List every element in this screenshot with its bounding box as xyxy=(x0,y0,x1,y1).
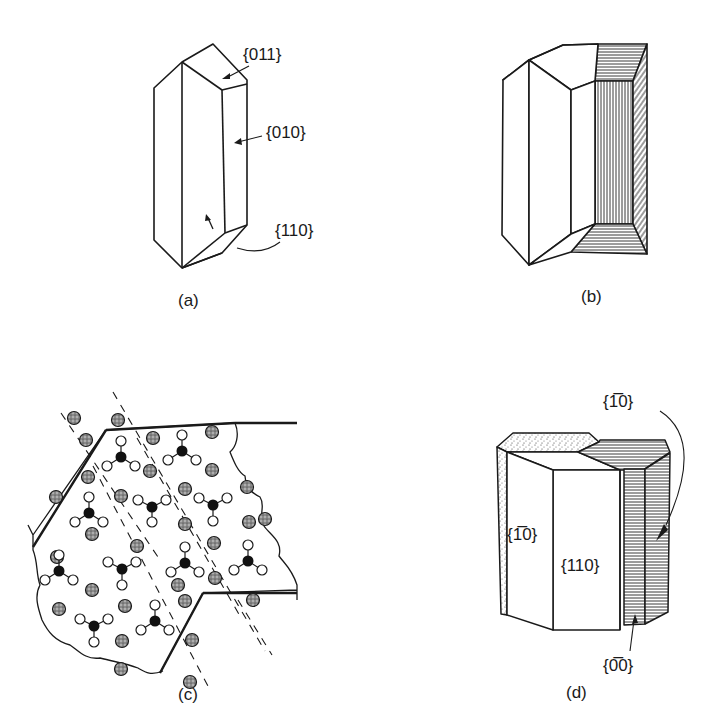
face-label-1bar10-left: {1̅0} xyxy=(507,525,538,544)
cation-site xyxy=(172,579,185,592)
cation-site xyxy=(80,434,93,447)
oxygen-atom xyxy=(191,455,201,465)
oxygen-atom xyxy=(70,517,80,527)
face-label-110: {110} xyxy=(275,221,314,240)
central-atom xyxy=(147,502,158,513)
oxygen-atom xyxy=(116,436,126,446)
panel-a-crystal xyxy=(154,44,280,268)
cation-site xyxy=(147,432,160,445)
cation-site xyxy=(115,490,128,503)
central-atom xyxy=(54,566,65,577)
oxygen-atom xyxy=(40,575,50,585)
central-atom xyxy=(84,508,95,519)
trigonal-unit xyxy=(102,436,140,471)
oxygen-atom xyxy=(133,495,143,505)
oxygen-atom xyxy=(75,614,85,624)
trigonal-unit xyxy=(70,492,108,527)
oxygen-atom xyxy=(177,430,187,440)
oxygen-atom xyxy=(194,567,204,577)
cation-site xyxy=(259,513,272,526)
trigonal-unit xyxy=(163,430,201,465)
cation-site xyxy=(241,481,254,494)
trigonal-unit xyxy=(75,614,113,647)
trigonal-unit xyxy=(133,495,171,527)
oxygen-atom xyxy=(180,542,190,552)
cation-site xyxy=(112,414,125,427)
cation-site xyxy=(115,663,128,676)
oxygen-atom xyxy=(229,565,239,575)
oxygen-atom xyxy=(150,600,160,610)
trigonal-unit xyxy=(40,550,78,585)
oxygen-atom xyxy=(84,492,94,502)
oxygen-atom xyxy=(147,517,157,527)
oxygen-atom xyxy=(68,575,78,585)
panel-label-c: (c) xyxy=(178,685,198,704)
cation-site xyxy=(119,600,132,613)
oxygen-atom xyxy=(257,565,267,575)
cation-site xyxy=(206,426,219,439)
trigonal-unit xyxy=(103,557,141,590)
cation-site xyxy=(86,584,99,597)
panel-label-a: (a) xyxy=(178,291,199,310)
central-atom xyxy=(117,564,128,575)
face-label-0bar10: {0̅0} xyxy=(603,656,634,675)
oxygen-atom xyxy=(54,550,64,560)
cation-site xyxy=(50,491,63,504)
trigonal-unit xyxy=(194,493,232,526)
oxygen-atom xyxy=(103,557,113,567)
cation-site xyxy=(208,537,221,550)
oxygen-atom xyxy=(164,625,174,635)
oxygen-atom xyxy=(130,461,140,471)
face-label-110: {110} xyxy=(561,556,600,575)
panel-label-b: (b) xyxy=(581,287,602,306)
cation-site xyxy=(209,572,222,585)
cation-site xyxy=(247,594,260,607)
oxygen-atom xyxy=(163,455,173,465)
crystal-habit-figure: {011} {010} {110} (a) (b) (c) xyxy=(0,0,727,717)
oxygen-atom xyxy=(166,567,176,577)
cation-site xyxy=(116,635,129,648)
panel-label-d: (d) xyxy=(566,683,587,702)
oxygen-atom xyxy=(208,516,218,526)
panel-c-structure xyxy=(28,392,297,690)
oxygen-atom xyxy=(102,461,112,471)
cation-site xyxy=(179,595,192,608)
trigonal-unit xyxy=(166,542,204,577)
ion-sites xyxy=(50,412,272,689)
central-atom xyxy=(116,452,127,463)
oxygen-atom xyxy=(161,495,171,505)
oxygen-atom xyxy=(243,540,253,550)
oxygen-atom xyxy=(194,493,204,503)
cation-site xyxy=(243,516,256,529)
cation-site xyxy=(144,465,157,478)
cation-site xyxy=(206,464,219,477)
central-atom xyxy=(177,446,188,457)
central-atom xyxy=(180,558,191,569)
trigonal-anion-groups xyxy=(40,430,267,647)
oxygen-atom xyxy=(98,517,108,527)
central-atom xyxy=(243,556,254,567)
central-atom xyxy=(208,500,219,511)
cation-site xyxy=(186,634,199,647)
face-label-011: {011} xyxy=(243,45,282,64)
cation-site xyxy=(179,483,192,496)
oxygen-atom xyxy=(89,637,99,647)
oxygen-atom xyxy=(103,614,113,624)
face-label-010: {010} xyxy=(266,123,306,142)
cation-site xyxy=(86,528,99,541)
cation-site xyxy=(131,540,144,553)
panel-b-crystal xyxy=(502,44,647,265)
cation-site xyxy=(68,412,81,425)
trigonal-unit xyxy=(136,600,174,635)
oxygen-atom xyxy=(131,557,141,567)
central-atom xyxy=(150,616,161,627)
cation-site xyxy=(179,518,192,531)
oxygen-atom xyxy=(222,493,232,503)
cation-site xyxy=(82,471,95,484)
oxygen-atom xyxy=(117,580,127,590)
face-label-1bar10-right: {1̅0} xyxy=(603,392,634,411)
cation-site xyxy=(53,603,66,616)
oxygen-atom xyxy=(136,625,146,635)
trigonal-unit xyxy=(229,540,267,575)
central-atom xyxy=(89,621,100,632)
